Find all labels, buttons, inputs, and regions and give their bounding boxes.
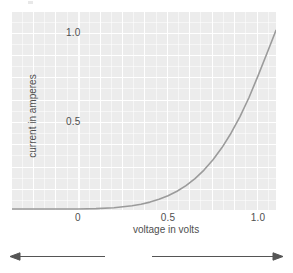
crop-corner-mark xyxy=(28,1,33,4)
plot-area xyxy=(12,12,276,210)
iv-curve xyxy=(12,12,276,210)
x-tick-1-0: 1.0 xyxy=(243,212,273,223)
diode-iv-characteristic-figure: 1.0 0.5 0 0.5 1.0 current in amperes vol… xyxy=(0,0,293,273)
x-tick-0-5: 0.5 xyxy=(153,212,183,223)
x-tick-0: 0 xyxy=(68,212,88,223)
bias-band: reverse bias forward bias xyxy=(0,238,293,272)
bias-axis-arrows xyxy=(0,238,293,272)
y-axis-label: current in amperes xyxy=(27,56,41,176)
y-tick-0-5: 0.5 xyxy=(66,116,81,127)
y-tick-1-0: 1.0 xyxy=(66,27,81,38)
x-axis-label: voltage in volts xyxy=(133,224,199,235)
